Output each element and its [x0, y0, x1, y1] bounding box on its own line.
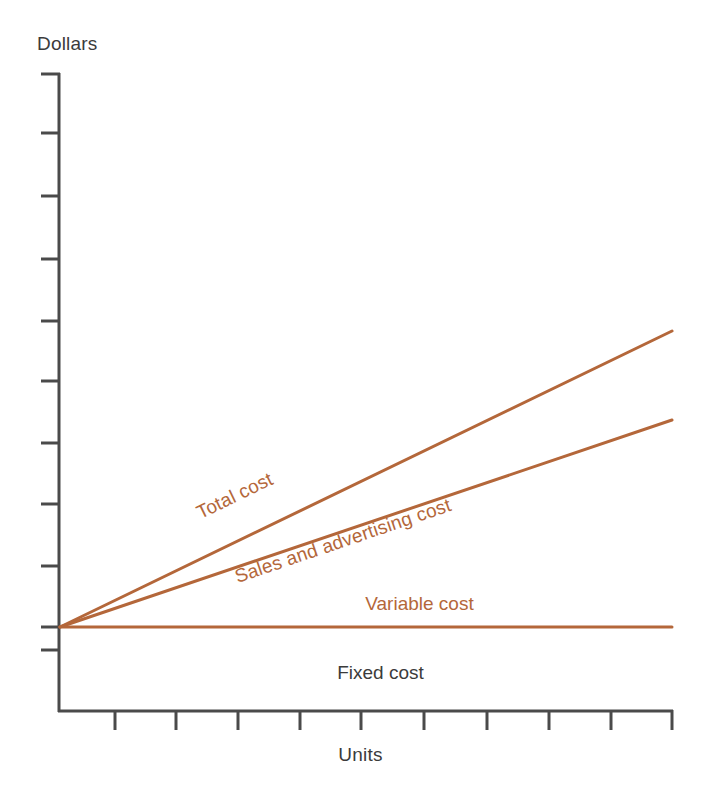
y-axis-title: Dollars	[37, 33, 98, 55]
chart-page: Dollars Units Total cost Sales and adver…	[0, 0, 721, 799]
series-label-variable-cost: Variable cost	[0, 593, 721, 615]
x-axis-title: Units	[0, 744, 721, 766]
series-label-fixed-cost: Fixed cost	[0, 662, 721, 684]
